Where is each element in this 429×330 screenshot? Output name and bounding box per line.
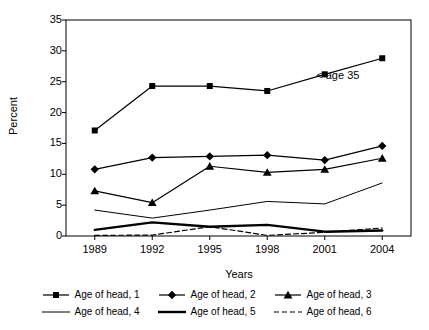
- legend-item[interactable]: Age of head, 6: [273, 306, 389, 318]
- series-line: [95, 146, 383, 169]
- legend-row: Age of head, 4Age of head, 5Age of head,…: [0, 303, 429, 320]
- marker-diamond: [167, 290, 175, 298]
- chart-legend: Age of head, 1Age of head, 2Age of head,…: [0, 286, 429, 320]
- marker-triangle: [378, 154, 387, 162]
- x-axis-tick-label: 2001: [305, 243, 345, 255]
- legend-label: Age of head, 5: [191, 306, 256, 317]
- marker-square: [264, 88, 270, 94]
- series-3: [90, 154, 386, 206]
- plot-area: [0, 0, 429, 330]
- legend-label: Age of head, 3: [307, 289, 372, 300]
- x-axis-tick-label: 2004: [362, 243, 402, 255]
- marker-diamond: [91, 165, 99, 173]
- marker-square: [53, 292, 59, 298]
- series-line: [95, 222, 383, 231]
- y-axis-tick-label: 25: [38, 76, 62, 87]
- y-axis-label: Percent: [7, 86, 19, 146]
- legend-marker-icon: [41, 289, 71, 301]
- legend-swatch-triangle: [273, 289, 303, 301]
- legend-label: Age of head, 2: [191, 289, 256, 300]
- legend-label: Age of head, 4: [75, 306, 140, 317]
- y-axis-tick-label: 20: [38, 107, 62, 118]
- legend-swatch-line: [273, 306, 303, 318]
- series-line: [95, 183, 383, 218]
- legend-item[interactable]: Age of head, 2: [157, 289, 273, 301]
- y-axis-tick-label: 10: [38, 168, 62, 179]
- series-5: [95, 222, 383, 231]
- marker-square: [379, 55, 385, 61]
- legend-row: Age of head, 1Age of head, 2Age of head,…: [0, 286, 429, 303]
- series-line: [95, 158, 383, 202]
- legend-marker-icon: [157, 306, 187, 318]
- marker-square: [92, 127, 98, 133]
- legend-label: Age of head, 1: [75, 289, 140, 300]
- legend-marker-icon: [41, 306, 71, 318]
- series-4: [95, 183, 383, 218]
- legend-item[interactable]: Age of head, 5: [157, 306, 273, 318]
- marker-triangle: [205, 162, 214, 170]
- legend-item[interactable]: Age of head, 4: [41, 306, 157, 318]
- marker-diamond: [206, 152, 214, 160]
- x-axis-tick-label: 1995: [190, 243, 230, 255]
- y-axis-tick-label: 15: [38, 137, 62, 148]
- marker-square: [149, 83, 155, 89]
- x-axis-label: Years: [66, 268, 412, 280]
- legend-label: Age of head, 6: [307, 306, 372, 317]
- y-axis-tick-labels: 05101520253035: [36, 0, 62, 260]
- marker-diamond: [378, 142, 386, 150]
- legend-swatch-diamond: [157, 289, 187, 301]
- legend-swatch-line: [157, 306, 187, 318]
- legend-item[interactable]: Age of head, 1: [41, 289, 157, 301]
- y-axis-tick-label: 35: [38, 14, 62, 25]
- legend-swatch-line: [41, 306, 71, 318]
- marker-diamond: [148, 153, 156, 161]
- legend-marker-icon: [157, 289, 187, 301]
- marker-square: [207, 83, 213, 89]
- legend-swatch-square: [41, 289, 71, 301]
- plot-frame: [66, 20, 411, 236]
- legend-item[interactable]: Age of head, 3: [273, 289, 389, 301]
- x-axis-tick-label: 1992: [132, 243, 172, 255]
- legend-marker-icon: [273, 306, 303, 318]
- series-1: [92, 55, 386, 133]
- series-annotation: < age 35: [316, 69, 359, 81]
- x-axis-tick-label: 1989: [75, 243, 115, 255]
- legend-marker-icon: [273, 289, 303, 301]
- marker-diamond: [321, 156, 329, 164]
- y-axis-tick-label: 30: [38, 45, 62, 56]
- y-axis-tick-label: 0: [38, 230, 62, 241]
- x-axis-tick-label: 1998: [247, 243, 287, 255]
- line-chart: Percent 05101520253035 19891992199519982…: [0, 0, 429, 330]
- marker-diamond: [263, 151, 271, 159]
- marker-triangle: [90, 187, 99, 195]
- y-axis-tick-label: 5: [38, 199, 62, 210]
